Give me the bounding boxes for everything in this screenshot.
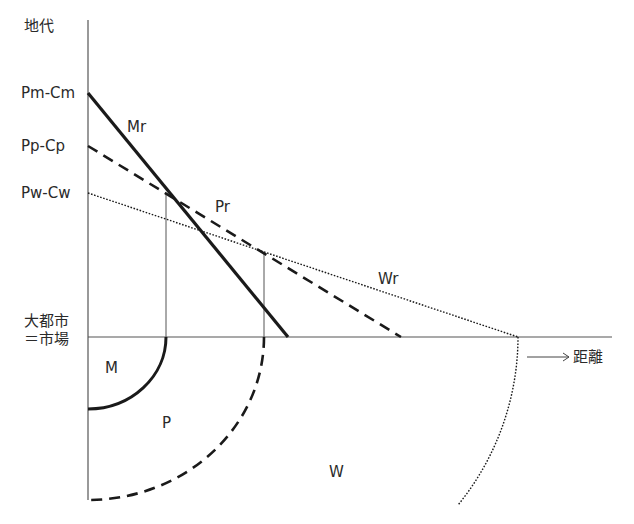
y-tick-pp-cp: Pp-Cp xyxy=(21,137,65,155)
rent-line-mr xyxy=(88,93,288,337)
distance-arrow-icon xyxy=(527,353,569,361)
label-mr: Mr xyxy=(127,118,146,136)
origin-label-city: 大都市 xyxy=(24,312,69,330)
zone-arc-w xyxy=(458,337,518,505)
origin-label-market: ＝市場 xyxy=(24,330,69,348)
y-axis-label: 地代 xyxy=(24,17,54,35)
bid-rent-diagram xyxy=(0,0,634,524)
zone-label-p: P xyxy=(162,414,171,432)
zone-arc-m xyxy=(88,337,166,409)
zone-label-w: W xyxy=(329,463,344,481)
x-axis-label: 距離 xyxy=(573,348,603,366)
rent-line-pr xyxy=(88,146,401,337)
rent-line-wr xyxy=(88,193,518,337)
y-tick-pw-cw: Pw-Cw xyxy=(21,184,70,202)
zone-label-m: M xyxy=(105,359,118,377)
y-tick-pm-cm: Pm-Cm xyxy=(21,84,75,102)
label-wr: Wr xyxy=(378,270,398,288)
label-pr: Pr xyxy=(215,198,230,216)
